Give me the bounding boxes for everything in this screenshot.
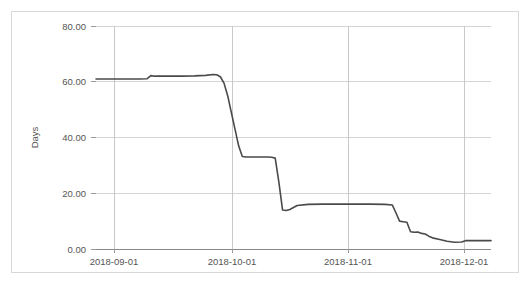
gridlines-horizontal bbox=[96, 26, 491, 193]
y-axis-tick-labels: 80.00 60.00 40.00 20.00 0.00 bbox=[62, 21, 86, 255]
y-tick-label-20: 20.00 bbox=[62, 188, 86, 199]
series-line-days bbox=[96, 75, 491, 243]
chart-card: 80.00 60.00 40.00 20.00 0.00 2018-09-01 … bbox=[11, 11, 519, 273]
x-axis-tick-marks bbox=[114, 249, 464, 253]
y-tick-label-60: 60.00 bbox=[62, 76, 86, 87]
x-tick-label-2018-11-01: 2018-11-01 bbox=[324, 256, 372, 267]
y-axis-title: Days bbox=[29, 126, 40, 148]
x-tick-label-2018-10-01: 2018-10-01 bbox=[208, 256, 257, 267]
y-tick-label-0: 0.00 bbox=[68, 244, 87, 255]
y-tick-label-80: 80.00 bbox=[62, 21, 86, 32]
line-chart: 80.00 60.00 40.00 20.00 0.00 2018-09-01 … bbox=[12, 12, 518, 272]
y-axis-tick-marks bbox=[91, 26, 96, 249]
x-tick-label-2018-12-01: 2018-12-01 bbox=[440, 256, 489, 267]
x-axis-tick-labels: 2018-09-01 2018-10-01 2018-11-01 2018-12… bbox=[90, 256, 489, 267]
x-tick-label-2018-09-01: 2018-09-01 bbox=[90, 256, 139, 267]
y-tick-label-40: 40.00 bbox=[62, 132, 86, 143]
